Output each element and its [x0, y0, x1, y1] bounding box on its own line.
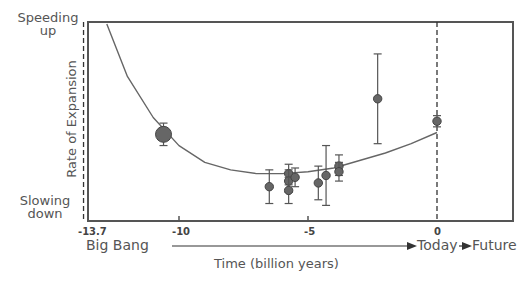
data-point	[291, 173, 299, 181]
data-point	[156, 126, 172, 142]
x-axis-label: Time (billion years)	[214, 257, 339, 270]
x-tick-label: -10	[172, 226, 190, 237]
y-axis-label: Rate of Expansion	[65, 59, 78, 179]
timeline-arrow-head	[407, 242, 417, 250]
x-tick-label: 0	[434, 226, 441, 237]
y-top-label: Speeding up	[10, 11, 86, 37]
data-point	[284, 186, 292, 194]
plot-frame	[88, 22, 513, 221]
big-bang-label: Big Bang	[86, 239, 149, 252]
x-tick-label: -5	[304, 226, 315, 237]
model-curve	[107, 24, 437, 174]
y-bottom-label: Slowing down	[14, 194, 76, 220]
data-point	[373, 95, 381, 103]
data-point	[322, 171, 330, 179]
data-point	[433, 117, 441, 125]
today-label: Today	[417, 239, 458, 252]
x-tick-label: -13.7	[78, 226, 107, 237]
data-point	[335, 168, 343, 176]
future-label: Future	[472, 239, 517, 252]
data-point	[314, 179, 322, 187]
future-arrow-head	[462, 242, 472, 250]
data-point	[265, 182, 273, 190]
